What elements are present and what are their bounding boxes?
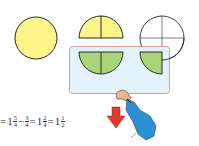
eq-op-minus: − (18, 115, 24, 127)
eq-frac-2: 34 (25, 115, 29, 128)
fraction-equation: = 1 54 − 34 = 1 24 = 1 12 (0, 111, 65, 131)
whole-yellow-circle (15, 17, 57, 59)
eq-lead: = (0, 115, 6, 127)
eq-whole-1: 1 (7, 115, 13, 127)
eq-whole-3: 1 (55, 115, 61, 127)
eq-frac-4: 12 (61, 115, 65, 128)
eq-frac-1: 54 (13, 115, 17, 128)
hand-pointer-icon (116, 90, 156, 140)
yellow-half-circle (79, 16, 123, 38)
eq-whole-2: 1 (37, 115, 43, 127)
eq-op-equals-1: = (29, 115, 35, 127)
eq-frac-3: 24 (43, 115, 47, 128)
eq-op-equals-2: = (47, 115, 53, 127)
red-down-arrow-icon (107, 107, 125, 128)
